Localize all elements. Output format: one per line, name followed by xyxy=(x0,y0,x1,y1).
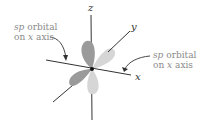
left-line2-prefix: on xyxy=(14,32,28,42)
lobe-y-positive xyxy=(92,49,115,69)
right-line2-prefix: on xyxy=(153,60,167,70)
left-arrowhead-icon xyxy=(63,55,68,61)
left-annotation-label: sp orbital on x axis xyxy=(14,22,57,42)
right-line2-rest: axis xyxy=(172,60,193,70)
left-line1-rest: orbital xyxy=(24,22,57,32)
right-line1-rest: orbital xyxy=(163,50,196,60)
y-axis-positive xyxy=(108,31,130,52)
right-line1-italic: sp xyxy=(153,50,163,60)
right-annotation-label: sp orbital on x axis xyxy=(153,50,196,70)
y-axis-label: y xyxy=(131,22,137,32)
right-annotation-arrow xyxy=(125,56,150,69)
right-arrowhead-icon xyxy=(122,67,128,72)
left-line1-italic: sp xyxy=(14,22,24,32)
lobe-z-positive xyxy=(81,41,94,69)
z-axis-label: z xyxy=(88,3,93,13)
orbital-diagram: z y x sp orbital on x axis sp orbital on… xyxy=(0,0,200,127)
x-axis-label: x xyxy=(135,72,141,82)
left-line2-rest: axis xyxy=(33,32,54,42)
origin-nucleus xyxy=(90,67,94,71)
